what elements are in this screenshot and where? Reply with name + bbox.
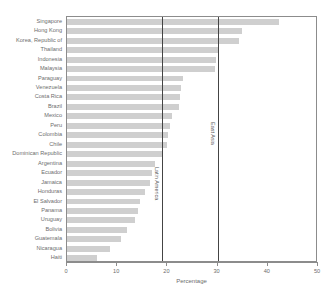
bar-chart: SingaporeHong KongKorea, Republic ofThai… [0, 0, 332, 293]
bar-row [67, 161, 316, 167]
bar [67, 217, 135, 223]
y-axis-label: Mexico [0, 112, 62, 118]
bar [67, 246, 110, 252]
y-axis-label: Dominican Republic [0, 150, 62, 156]
bar [67, 66, 215, 72]
x-axis-title: Percentage [66, 278, 317, 284]
y-axis-label: Nicaragua [0, 245, 62, 251]
bar-row [67, 151, 316, 157]
y-axis-labels: SingaporeHong KongKorea, Republic ofThai… [0, 16, 62, 262]
x-axis: 01020304050 [66, 262, 317, 263]
chart-title [0, 0, 332, 4]
bar [67, 170, 152, 176]
bar-row [67, 217, 316, 223]
reference-line [162, 17, 163, 261]
y-axis-label: Jamaica [0, 179, 62, 185]
bar-row [67, 123, 316, 129]
bar-row [67, 142, 316, 148]
y-axis-label: Malaysia [0, 65, 62, 71]
bar-row [67, 28, 316, 34]
bar-row [67, 199, 316, 205]
reference-line-label: East Asia [210, 122, 216, 145]
bar [67, 47, 218, 53]
x-axis-tick [116, 262, 117, 266]
y-axis-label: Argentina [0, 160, 62, 166]
y-axis-label: Colombia [0, 131, 62, 137]
x-axis-tick-label: 50 [314, 268, 320, 274]
y-axis-label: Panama [0, 207, 62, 213]
bar-row [67, 180, 316, 186]
x-axis-tick-label: 10 [113, 268, 119, 274]
x-axis-tick [66, 262, 67, 266]
y-axis-label: Uruguay [0, 216, 62, 222]
bar-row [67, 227, 316, 233]
bar [67, 28, 242, 34]
bar [67, 161, 155, 167]
x-axis-tick [166, 262, 167, 266]
y-axis-label: Guatemala [0, 235, 62, 241]
x-axis-tick [317, 262, 318, 266]
y-axis-label: Haiti [0, 254, 62, 260]
y-axis-label: Chile [0, 141, 62, 147]
y-axis-label: Venezuela [0, 84, 62, 90]
y-axis-label: Bolivia [0, 226, 62, 232]
x-axis-tick [217, 262, 218, 266]
y-axis-label: Costa Rica [0, 93, 62, 99]
bar [67, 199, 140, 205]
bar [67, 227, 127, 233]
y-axis-label: El Salvador [0, 198, 62, 204]
bar-row [67, 132, 316, 138]
bar [67, 38, 239, 44]
bar-row [67, 104, 316, 110]
bar [67, 76, 183, 82]
bar-row [67, 57, 316, 63]
y-axis-label: Honduras [0, 188, 62, 194]
bar-row [67, 66, 316, 72]
y-axis-label: Hong Kong [0, 27, 62, 33]
bar-row [67, 19, 316, 25]
y-axis-label: Paraguay [0, 75, 62, 81]
bar-row [67, 113, 316, 119]
bar [67, 94, 180, 100]
bar-row [67, 47, 316, 53]
bar [67, 142, 167, 148]
y-axis-label: Brazil [0, 103, 62, 109]
bar [67, 151, 162, 157]
reference-line-label: Latin America [154, 167, 160, 200]
y-axis-label: Indonesia [0, 56, 62, 62]
bar-row [67, 38, 316, 44]
x-axis-tick-label: 0 [64, 268, 67, 274]
x-axis-tick-label: 20 [163, 268, 169, 274]
bar [67, 113, 172, 119]
bar [67, 180, 150, 186]
bar-row [67, 85, 316, 91]
bar-row [67, 236, 316, 242]
bar-row [67, 246, 316, 252]
bar [67, 255, 97, 261]
bar [67, 123, 170, 129]
bar [67, 189, 145, 195]
reference-line [218, 17, 219, 261]
bar [67, 132, 168, 138]
bar [67, 57, 216, 63]
y-axis-label: Singapore [0, 18, 62, 24]
y-axis-label: Peru [0, 122, 62, 128]
bar-row [67, 208, 316, 214]
plot-area: Latin AmericaEast Asia [66, 16, 317, 262]
y-axis-label: Ecuador [0, 169, 62, 175]
bars-layer [67, 17, 316, 261]
bar [67, 19, 279, 25]
x-axis-tick-label: 40 [264, 268, 270, 274]
bar-row [67, 170, 316, 176]
bar-row [67, 189, 316, 195]
bar-row [67, 76, 316, 82]
y-axis-label: Thailand [0, 46, 62, 52]
x-axis-tick-label: 30 [213, 268, 219, 274]
bar [67, 85, 181, 91]
bar-row [67, 255, 316, 261]
bar-row [67, 94, 316, 100]
bar [67, 236, 121, 242]
y-axis-label: Korea, Republic of [0, 37, 62, 43]
bar [67, 208, 138, 214]
x-axis-tick [267, 262, 268, 266]
